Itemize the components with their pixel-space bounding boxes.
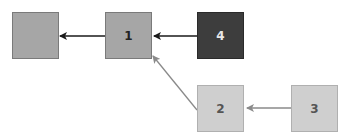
edge-2-to-1 (153, 56, 197, 110)
node-2: 2 (197, 85, 244, 132)
node-label: 4 (216, 29, 224, 43)
node-label: 3 (310, 102, 318, 116)
node-unlabeled (12, 12, 59, 59)
node-1: 1 (105, 12, 152, 59)
node-label: 1 (124, 29, 132, 43)
node-label: 2 (216, 102, 224, 116)
node-4: 4 (197, 12, 244, 59)
node-3: 3 (291, 85, 338, 132)
